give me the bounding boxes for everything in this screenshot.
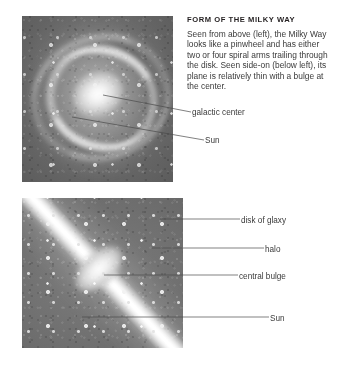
edge-on-galaxy-image — [22, 198, 183, 348]
callout-label-central-bulge: central bulge — [239, 272, 286, 281]
callout-label-sun-bottom: Sun — [270, 314, 285, 323]
callout-label-halo: halo — [265, 245, 280, 254]
spiral-galaxy-image — [22, 16, 173, 182]
callout-label-disk-of-galaxy: disk of glaxy — [241, 216, 286, 225]
article-heading: FORM OF THE MILKY WAY — [187, 15, 333, 25]
spiral-film-grain — [22, 16, 173, 182]
callout-label-sun-top: Sun — [205, 136, 220, 145]
article-text-block: FORM OF THE MILKY WAY Seen from above (l… — [187, 15, 333, 91]
edge-film-grain — [22, 198, 183, 348]
callout-label-galactic-center: galactic center — [192, 108, 245, 117]
article-body: Seen from above (left), the Milky Way lo… — [187, 29, 333, 91]
